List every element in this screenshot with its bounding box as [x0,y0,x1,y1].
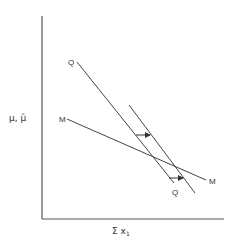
diagram-canvas: Q Q M M μ, μ̂ Σ x1 [0,0,237,247]
x-axis-label-subscript: 1 [126,230,130,237]
x-axis-label-main: Σ x [112,226,127,236]
x-axis-label: Σ x1 [112,226,130,237]
label-q-end: Q [172,188,178,197]
curve-qq [77,62,174,183]
label-m-end: M [209,177,216,186]
curve-mm [67,119,206,180]
y-axis-label: μ, μ̂ [9,113,26,123]
label-q-start: Q [68,58,74,67]
curve-q-shifted [129,105,195,193]
label-m-start: M [59,115,66,124]
